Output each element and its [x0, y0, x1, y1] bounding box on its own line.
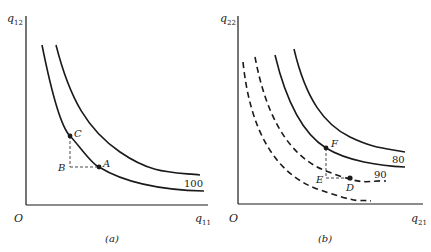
panel-b-y-axis-label: q22	[220, 12, 236, 27]
panel-a-isoquant-outer	[56, 45, 200, 175]
panel-a-point-a	[97, 165, 102, 170]
panel-b: q22 q21 O (b) 80 90 F E D	[220, 12, 427, 244]
panel-a-label-c: C	[74, 128, 82, 139]
panel-a-label-b: B	[57, 162, 65, 173]
panel-a-x-axis-label: q11	[195, 212, 211, 227]
panel-b-caption: (b)	[318, 233, 332, 244]
panel-b-label-f: F	[330, 138, 339, 149]
panel-b-curve-label-80: 80	[392, 154, 405, 165]
panel-b-isoquant-outer	[294, 49, 405, 152]
panel-a-label-a: A	[102, 158, 110, 169]
panel-b-curve-label-90: 90	[374, 169, 387, 180]
panel-a-caption: (a)	[105, 233, 119, 244]
panel-a-origin-label: O	[14, 212, 23, 225]
panel-b-point-d	[347, 175, 352, 180]
panel-a: q12 q11 O (a) 100 C A B	[7, 12, 211, 244]
panel-a-point-c	[68, 134, 73, 139]
isoquant-figure: q12 q11 O (a) 100 C A B q22 q21 O (b) 80…	[0, 0, 431, 252]
panel-a-isoquant-inner	[42, 45, 204, 191]
panel-a-curve-label: 100	[184, 178, 203, 189]
panel-b-point-f	[324, 146, 329, 151]
panel-b-label-d: D	[345, 182, 354, 193]
panel-a-y-axis-label: q12	[7, 12, 23, 27]
panel-b-label-e: E	[315, 174, 324, 185]
panel-b-x-axis-label: q21	[411, 212, 427, 227]
panel-b-origin-label: O	[229, 212, 238, 225]
